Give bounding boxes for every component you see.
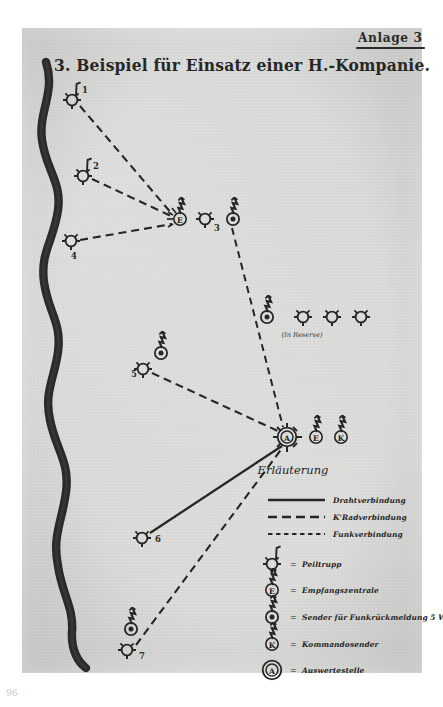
legend-glyph-A: A — [268, 667, 275, 676]
legend-symbol-kommandosender: K = Kommandosender — [266, 623, 380, 651]
node-kommandosender-K[interactable]: K — [335, 416, 347, 444]
node-sender-S5[interactable] — [155, 332, 167, 360]
legend-symbol-label-1: Peiltrupp — [301, 560, 342, 569]
node-peiltrupp-3[interactable]: 3 — [196, 212, 220, 233]
legend-line-drahtverbindung: Drahtverbindung — [268, 496, 406, 505]
link-1-to-E — [80, 106, 172, 214]
reserve-note: (In Reserve) — [281, 331, 322, 339]
node-sender-S1[interactable] — [227, 198, 239, 226]
legend-glyph-K: K — [269, 641, 276, 650]
legend-equals-2: = — [290, 586, 297, 595]
node-auswertestelle-A[interactable]: A — [273, 423, 302, 452]
link-sender-to-A — [232, 228, 283, 427]
legend-equals-5: = — [290, 666, 297, 675]
node-peiltrupp-5[interactable]: 5 — [131, 362, 152, 379]
legend-symbol-empfangszentrale: E = Empfangszentrale — [266, 569, 379, 597]
legend-equals-1: = — [290, 560, 297, 569]
node-peiltrupp-7[interactable]: 7 — [118, 643, 145, 661]
deployment-diagram: 1 2 4 E 3 — [0, 0, 443, 707]
legend-symbol-auswertestelle: A = Auswertestelle — [263, 661, 365, 680]
legend-heading: Erläuterung — [257, 463, 329, 477]
legend-line-label-1: Drahtverbindung — [332, 496, 406, 505]
scanned-page: Anlage 3 3. Beispiel für Einsatz einer H… — [0, 0, 443, 707]
legend-glyph-E: E — [269, 587, 275, 596]
page-number: 96 — [6, 688, 17, 698]
node-label-2: 2 — [93, 161, 99, 171]
legend-line-label-2: K'Radverbindung — [332, 513, 407, 522]
link-5-to-A — [152, 373, 278, 431]
legend-line-funkverbindung: Funkverbindung — [268, 530, 403, 539]
node-label-E2: E — [313, 434, 319, 443]
legend-symbol-label-5: Auswertestelle — [301, 666, 365, 675]
node-sender-S7[interactable] — [125, 608, 137, 636]
node-sender-reserve[interactable] — [261, 296, 273, 324]
node-label-7: 7 — [139, 651, 145, 661]
node-label-K: K — [338, 434, 345, 443]
node-empfangszentrale-E2[interactable]: E — [310, 416, 322, 444]
node-label-5: 5 — [131, 369, 137, 379]
node-peiltrupp-reserve-3[interactable] — [352, 310, 370, 326]
link-4-to-E — [80, 224, 172, 240]
node-label-1: 1 — [82, 85, 88, 95]
legend-symbol-label-4: Kommandosender — [301, 640, 379, 649]
legend-symbol-label-3: Sender für Funkrückmeldung 5 Watt — [302, 613, 443, 622]
node-peiltrupp-4[interactable]: 4 — [62, 234, 80, 261]
node-label-6: 6 — [155, 534, 161, 544]
node-peiltrupp-reserve-2[interactable] — [323, 310, 341, 326]
node-label-E1: E — [177, 216, 183, 225]
legend-line-kradverbindung: K'Radverbindung — [268, 513, 407, 522]
legend-line-label-3: Funkverbindung — [332, 530, 403, 539]
node-peiltrupp-6[interactable]: 6 — [133, 531, 161, 547]
node-empfangszentrale-E1[interactable]: E — [167, 198, 186, 228]
legend-equals-3: = — [290, 613, 297, 622]
node-label-A: A — [283, 434, 290, 443]
legend-symbol-label-2: Empfangszentrale — [301, 586, 379, 595]
link-6-to-A — [150, 446, 282, 533]
reserve-group: (In Reserve) — [261, 296, 370, 340]
legend-symbol-sender: = Sender für Funkrückmeldung 5 Watt — [266, 596, 443, 624]
node-peiltrupp-1[interactable]: 1 — [63, 82, 88, 109]
river-line — [41, 62, 86, 668]
node-label-4: 4 — [71, 251, 77, 261]
legend-equals-4: = — [290, 640, 297, 649]
node-peiltrupp-reserve-1[interactable] — [294, 310, 312, 326]
node-label-3: 3 — [214, 223, 220, 233]
